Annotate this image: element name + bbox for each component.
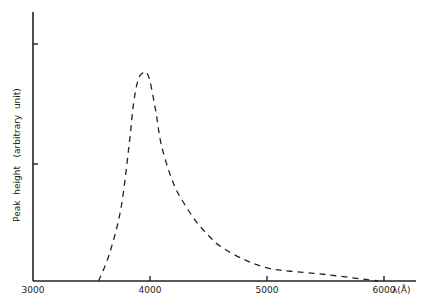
chart: 3000400050006000 λ(Å) Peak height (arbit… <box>0 0 438 305</box>
x-tick-label: 4000 <box>139 285 162 295</box>
y-axis <box>33 12 38 281</box>
x-tick-label: 5000 <box>256 285 279 295</box>
x-axis <box>33 276 416 281</box>
x-tick-labels: 3000400050006000 <box>22 285 396 295</box>
x-axis-label: λ(Å) <box>392 284 411 295</box>
x-tick-label: 3000 <box>22 285 45 295</box>
peak-height-curve <box>99 72 379 281</box>
y-axis-label: Peak height (arbitrary unit) <box>12 88 22 222</box>
